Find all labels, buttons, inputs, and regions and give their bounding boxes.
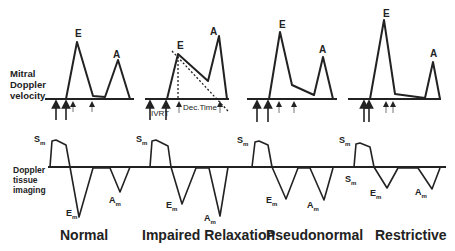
label-e: E	[177, 40, 184, 51]
panel-title-pseudonormal: Pseudonormal	[266, 227, 363, 243]
label-e: E	[75, 28, 82, 39]
sub: m	[351, 180, 356, 186]
label-am: Am	[415, 187, 427, 199]
label-em: Em	[370, 188, 381, 200]
label-a: A	[319, 44, 326, 55]
label-a: A	[430, 48, 437, 59]
dec-time-label: Dec.Time	[183, 103, 217, 112]
label-e: E	[383, 8, 390, 19]
sub: m	[243, 141, 248, 147]
ivrt-label: IVRT	[151, 109, 169, 118]
sub: m	[272, 201, 277, 207]
sub: m	[116, 201, 121, 207]
label-am: Am	[109, 195, 121, 207]
panel-title-normal: Normal	[60, 227, 108, 243]
label-em: Em	[166, 200, 177, 212]
label-am: Am	[204, 213, 216, 225]
sub: m	[142, 140, 147, 146]
sub: m	[376, 194, 381, 200]
label-sm: Sm	[339, 135, 350, 147]
sub: m	[345, 141, 350, 147]
label-a: A	[113, 49, 120, 60]
label-em: Em	[66, 208, 77, 220]
peak-labels: E A E A E A E A IVRT Dec.Time Sm Em Am S…	[0, 0, 455, 251]
label-am: Am	[307, 200, 319, 212]
panel-title-impaired: Impaired Relaxation	[142, 227, 275, 243]
label-sm-secondary: Sm	[345, 174, 356, 186]
sub: m	[314, 206, 319, 212]
sub: m	[422, 193, 427, 199]
panel-title-restrictive: Restrictive	[375, 227, 447, 243]
sub: m	[72, 214, 77, 220]
label-em: Em	[266, 195, 277, 207]
sub: m	[211, 219, 216, 225]
label-sm: Sm	[34, 134, 45, 146]
label-sm: Sm	[237, 135, 248, 147]
sub: m	[40, 140, 45, 146]
label-e: E	[279, 19, 286, 30]
sub: m	[172, 206, 177, 212]
label-a: A	[210, 26, 217, 37]
label-sm: Sm	[136, 134, 147, 146]
